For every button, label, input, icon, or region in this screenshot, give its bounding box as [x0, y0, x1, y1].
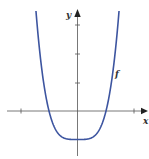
curve-label-f: f — [114, 69, 121, 79]
y-axis: y — [65, 9, 81, 156]
x-axis-arrow-icon — [141, 108, 148, 114]
y-axis-arrow-icon — [74, 9, 80, 17]
y-axis-label: y — [65, 10, 72, 20]
x-axis-label: x — [142, 116, 149, 126]
x-axis: x — [7, 108, 149, 126]
function-plot: x y f — [0, 0, 149, 159]
